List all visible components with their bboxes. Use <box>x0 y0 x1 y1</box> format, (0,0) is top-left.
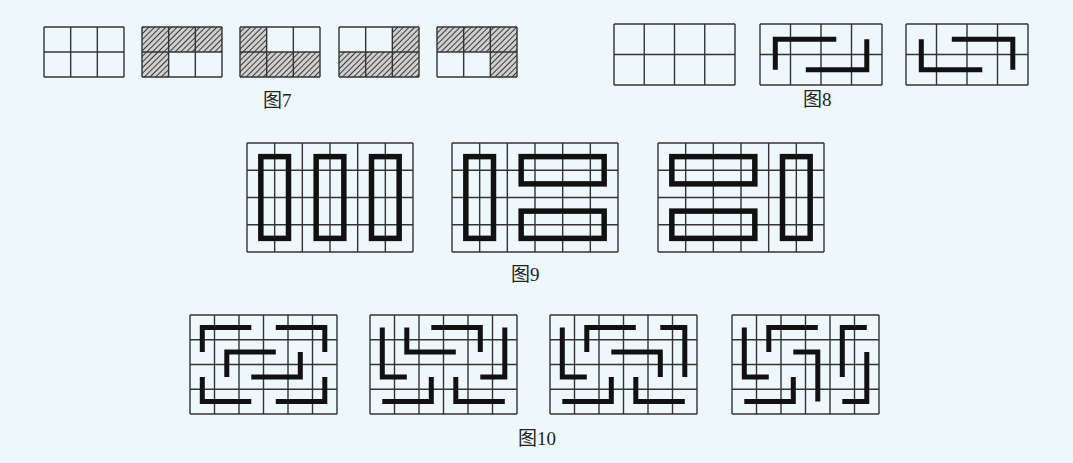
figure-9 <box>247 143 824 252</box>
hatched-cell <box>293 52 320 77</box>
fig8-grid-3 <box>906 24 1028 85</box>
fig7-grid-3 <box>240 27 320 77</box>
fig9-grid-1 <box>247 143 413 252</box>
hatched-cell <box>464 27 491 52</box>
hatched-cell <box>490 27 517 52</box>
fig8-grid-1 <box>614 24 735 85</box>
hatched-cell <box>339 52 366 77</box>
fig10-grid-2 <box>370 315 517 414</box>
fig9-grid-3 <box>658 143 824 252</box>
caption-figure-10: 图10 <box>518 429 556 448</box>
hatched-cell <box>392 27 419 52</box>
hatched-cell <box>392 52 419 77</box>
hatched-cell <box>142 52 169 77</box>
caption-figure-7: 图7 <box>263 91 292 110</box>
fig10-grid-1 <box>190 315 337 414</box>
caption-figure-8: 图8 <box>803 90 832 109</box>
figure-8 <box>614 24 1028 85</box>
fig9-grid-2 <box>452 143 618 252</box>
fig7-grid-4 <box>339 27 419 77</box>
fig8-grid-2 <box>760 24 882 85</box>
figure-7 <box>44 27 517 77</box>
hatched-cell <box>169 27 196 52</box>
hatched-cell <box>267 52 294 77</box>
figures-canvas <box>0 0 1073 463</box>
figure-10 <box>190 315 879 414</box>
hatched-cell <box>142 27 169 52</box>
hatched-cell <box>195 27 222 52</box>
hatched-cell <box>240 27 267 52</box>
fig7-grid-5 <box>437 27 517 77</box>
hatched-cell <box>366 52 393 77</box>
hatched-cell <box>437 27 464 52</box>
caption-figure-9: 图9 <box>511 265 540 284</box>
hatched-cell <box>490 52 517 77</box>
fig7-grid-1 <box>44 27 124 77</box>
hatched-cell <box>240 52 267 77</box>
fig10-grid-4 <box>732 315 879 414</box>
fig10-grid-3 <box>550 315 697 414</box>
fig7-grid-2 <box>142 27 222 77</box>
